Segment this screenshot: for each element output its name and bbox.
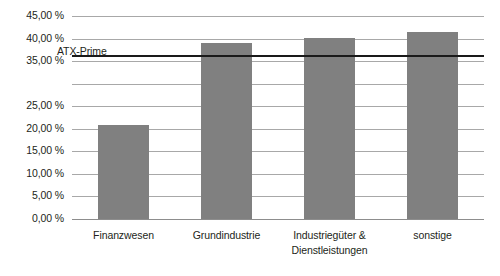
x-axis: FinanzwesenGrundindustrieIndustriegüter … <box>72 228 484 272</box>
y-axis-tick-label: 0,00 % <box>0 212 64 224</box>
reference-line-label: ATX-Prime <box>57 45 107 57</box>
x-axis-tick-label: Grundindustrie <box>175 228 278 243</box>
y-axis-tick-label: 10,00 % <box>0 167 64 179</box>
y-axis-tick-label: 40,00 % <box>0 32 64 44</box>
x-axis-tick-label-line: Grundindustrie <box>193 229 260 241</box>
x-axis-tick-label-line: Industriegüter & <box>293 229 366 241</box>
x-axis-tick-label-line: Dienstleistungen <box>278 243 381 258</box>
y-axis-tick-label: 25,00 % <box>0 99 64 111</box>
y-axis-tick-label: 20,00 % <box>0 122 64 134</box>
y-axis-tick-label: 15,00 % <box>0 144 64 156</box>
bar-chart: 45,00 %40,00 %35,00 %25,00 %20,00 %15,00… <box>0 0 500 276</box>
x-axis-tick-label: Finanzwesen <box>72 228 175 243</box>
x-axis-tick-label: Industriegüter &Dienstleistungen <box>278 228 381 258</box>
y-axis-tick-label: 45,00 % <box>0 9 64 21</box>
x-axis-tick-label-line: Finanzwesen <box>93 229 154 241</box>
axis-baseline <box>72 219 484 220</box>
x-axis-tick-label-line: sonstige <box>413 229 451 241</box>
y-axis-tick-label: 5,00 % <box>0 189 64 201</box>
x-axis-tick-label: sonstige <box>381 228 484 243</box>
y-axis-tick-label: 35,00 % <box>0 54 64 66</box>
